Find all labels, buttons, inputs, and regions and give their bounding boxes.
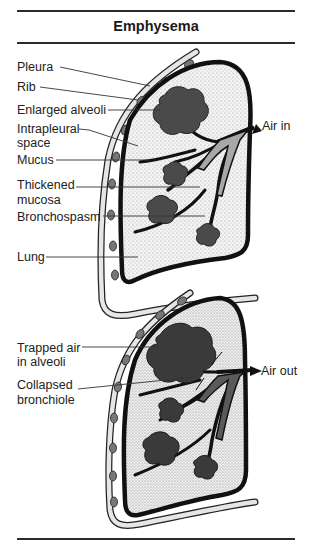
exhale-panel xyxy=(78,293,262,525)
label-air-out: Air out xyxy=(261,364,297,378)
label-trapped-1: Trapped air xyxy=(17,341,80,355)
label-pleura: Pleura xyxy=(17,60,53,74)
label-enlarged-alveoli: Enlarged alveoli xyxy=(17,103,106,117)
label-intrapleural-2: space xyxy=(17,136,50,150)
label-lung: Lung xyxy=(17,250,45,264)
label-intrapleural-1: Intrapleural xyxy=(17,122,80,136)
label-mucus: Mucus xyxy=(17,153,54,167)
label-collapsed-2: bronchiole xyxy=(17,393,75,407)
label-air-in: Air in xyxy=(262,119,290,133)
label-collapsed-1: Collapsed xyxy=(17,378,73,392)
label-thickened-1: Thickened xyxy=(17,178,75,192)
bottom-rule xyxy=(17,538,295,540)
label-thickened-2: mucosa xyxy=(17,193,61,207)
label-rib: Rib xyxy=(17,80,36,94)
emphysema-diagram xyxy=(0,0,311,545)
label-trapped-2: in alveoli xyxy=(17,355,66,369)
label-bronchospasm: Bronchospasm xyxy=(17,210,100,224)
